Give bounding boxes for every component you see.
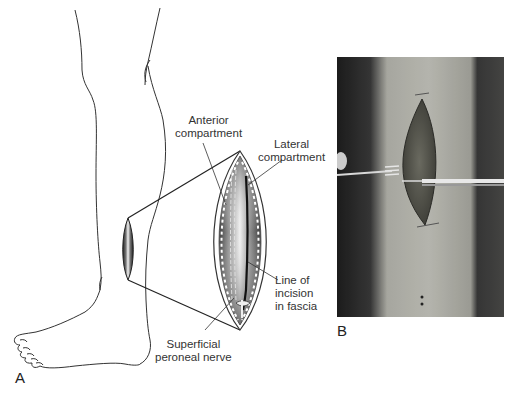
label-line: compartment [258,151,325,164]
leg-outline [14,8,165,368]
label-line: Lateral [258,138,325,151]
panel-b-photograph [337,57,504,317]
compartment-fasciotomy-figure: Anterior compartment Lateral compartment… [0,0,509,395]
label-lateral-compartment: Lateral compartment [258,138,325,164]
label-anterior-compartment: Anterior compartment [175,114,242,140]
label-line: incision [275,287,317,300]
label-line: Anterior [175,114,242,127]
label-line: peroneal nerve [155,351,232,364]
label-line: Superficial [155,338,232,351]
panel-letter-a: A [15,369,25,386]
label-superficial-peroneal-nerve: Superficial peroneal nerve [155,338,232,364]
small-incision [123,218,134,280]
label-line: in fascia [275,300,317,313]
label-line-of-incision: Line of incision in fascia [275,274,317,313]
label-line: Line of [275,274,317,287]
label-line: compartment [175,127,242,140]
panel-letter-b: B [337,322,347,339]
